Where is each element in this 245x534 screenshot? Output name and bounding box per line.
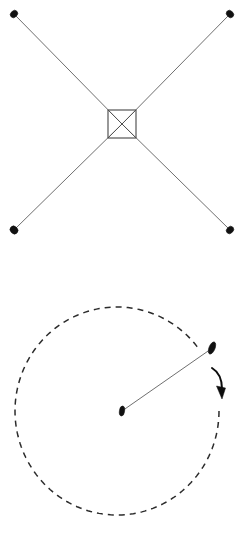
radius-arm	[122, 349, 211, 411]
figure-sheet	[0, 0, 245, 534]
line-upper-left	[15, 15, 122, 124]
dashed-orbit-path	[15, 307, 219, 515]
line-lower-right	[122, 124, 229, 229]
pivot-bob	[119, 406, 126, 417]
dashed-orbit-circle	[15, 307, 219, 515]
rotation-direction-arrow	[212, 368, 226, 399]
radius-arm-line	[122, 349, 211, 411]
crossed-lines-group	[15, 15, 229, 229]
line-lower-left	[15, 124, 122, 229]
rotation-arrow-head	[217, 386, 226, 399]
figure-crossed-pendulums	[0, 0, 245, 267]
crossed-pendulums-canvas	[0, 0, 245, 267]
rotation-arrow-shaft	[212, 368, 222, 389]
rotating-arm-canvas	[0, 267, 245, 534]
line-upper-right	[122, 15, 229, 124]
figure-rotating-arm	[0, 267, 245, 534]
orbiting-bob	[207, 341, 217, 355]
central-square	[108, 110, 136, 138]
